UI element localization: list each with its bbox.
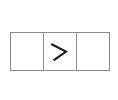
- grid-cell-right[interactable]: [77, 33, 109, 70]
- grid-cell-middle[interactable]: >: [44, 33, 77, 70]
- three-cell-row: >: [10, 32, 110, 71]
- canvas-root: >: [0, 0, 118, 100]
- grid-cell-left[interactable]: [11, 33, 44, 70]
- chevron-right-icon: [48, 40, 70, 64]
